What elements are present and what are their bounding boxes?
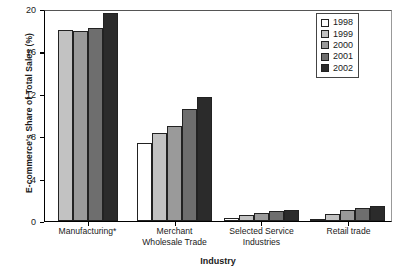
bar-1998 — [224, 218, 239, 221]
bar-2001 — [88, 28, 103, 221]
legend-item: 2001 — [321, 51, 353, 62]
x-tick-mark — [348, 221, 349, 226]
bar-2002 — [103, 13, 118, 221]
y-tick-label: 8 — [0, 132, 36, 142]
bar-2000 — [73, 31, 88, 221]
x-category-label-line: Selected Service — [218, 226, 305, 237]
x-category-label-line: Merchant — [131, 226, 218, 237]
bar-group — [45, 11, 132, 221]
y-tick-label: 20 — [0, 5, 36, 15]
legend-label: 1999 — [333, 30, 353, 39]
x-category-label: Retail trade — [305, 226, 392, 247]
legend-item: 2002 — [321, 63, 353, 74]
y-tick-label: 12 — [0, 90, 36, 100]
bar-2000 — [254, 213, 269, 221]
y-tick-mark — [40, 137, 44, 138]
bar-2000 — [340, 210, 355, 221]
x-tick-mark — [175, 221, 176, 226]
bar-2002 — [370, 206, 385, 221]
x-axis-title: Industry — [44, 256, 392, 266]
y-tick-mark — [40, 95, 44, 96]
legend-swatch-1998 — [321, 19, 329, 27]
bar-2001 — [355, 208, 370, 221]
legend-item: 1998 — [321, 17, 353, 28]
y-tick-label: 16 — [0, 47, 36, 57]
y-axis-title: E-commerce's Share of Total Sales (%) — [24, 0, 34, 228]
legend-item: 1999 — [321, 28, 353, 39]
bar-2001 — [182, 109, 197, 221]
legend-swatch-1999 — [321, 30, 329, 38]
bar-2002 — [284, 210, 299, 221]
x-category-label: MerchantWholesale Trade — [131, 226, 218, 247]
legend: 19981999200020012002 — [316, 13, 359, 78]
y-tick-mark — [40, 180, 44, 181]
bar-group — [218, 11, 305, 221]
x-tick-mark — [88, 221, 89, 226]
legend-swatch-2000 — [321, 41, 329, 49]
legend-swatch-2001 — [321, 53, 329, 61]
bar-2001 — [269, 211, 284, 221]
x-tick-mark — [261, 221, 262, 226]
bar-1998 — [310, 219, 325, 221]
x-category-label: Selected ServiceIndustries — [218, 226, 305, 247]
bar-1998 — [137, 143, 152, 221]
bar-1999 — [152, 133, 167, 221]
x-category-label-line: Manufacturing* — [44, 226, 131, 237]
x-category-label-line: Retail trade — [305, 226, 392, 237]
x-axis-labels: Manufacturing*MerchantWholesale TradeSel… — [44, 226, 392, 247]
bar-2000 — [167, 126, 182, 221]
bar-1999 — [239, 215, 254, 221]
legend-label: 2002 — [333, 64, 353, 73]
ecommerce-share-bar-chart: E-commerce's Share of Total Sales (%) 04… — [0, 0, 400, 276]
legend-item: 2000 — [321, 40, 353, 51]
legend-swatch-2002 — [321, 64, 329, 72]
y-tick-label: 0 — [0, 217, 36, 227]
bar-1999 — [58, 30, 73, 221]
y-tick-mark — [40, 222, 44, 223]
y-tick-mark — [40, 10, 44, 11]
y-tick-mark — [40, 52, 44, 53]
legend-label: 1998 — [333, 18, 353, 27]
bar-1999 — [325, 214, 340, 221]
x-category-label-line: Wholesale Trade — [131, 237, 218, 248]
bar-2002 — [197, 97, 212, 221]
legend-label: 2001 — [333, 52, 353, 61]
x-category-label: Manufacturing* — [44, 226, 131, 247]
bar-group — [132, 11, 219, 221]
legend-label: 2000 — [333, 41, 353, 50]
y-tick-label: 4 — [0, 175, 36, 185]
x-category-label-line: Industries — [218, 237, 305, 248]
